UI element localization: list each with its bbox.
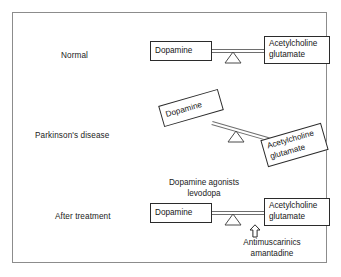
annotation-line-agonists: Dopamine agonists [143,178,265,189]
row-label-parkinsons: Parkinson's disease [35,131,109,140]
node-text-glutamate: glutamate [269,50,325,61]
annotation-line-antimuscarinics: Antimuscarinics [211,238,333,249]
node-box-dopamine-treatment: Dopamine [150,203,212,223]
row-label-treatment: After treatment [55,212,111,221]
annotation-dopamine-agonists: Dopamine agonists levodopa [143,178,265,199]
row-label-normal: Normal [61,51,88,60]
node-box-acetylcholine-parkinsons: Acetylcholine glutamate [260,123,328,167]
node-box-acetylcholine-normal: Acetylcholine glutamate [264,36,330,64]
diagram-frame: Normal Parkinson's disease After treatme… [12,12,327,263]
node-box-dopamine-normal: Dopamine [150,41,212,61]
fulcrum-triangle-parkinsons [227,130,245,143]
node-box-acetylcholine-treatment: Acetylcholine glutamate [264,198,330,226]
annotation-line-amantadine: amantadine [211,249,333,260]
annotation-line-levodopa: levodopa [143,189,265,200]
node-text-acetylcholine: Acetylcholine [269,201,325,212]
node-text-acetylcholine: Acetylcholine [269,39,325,50]
fulcrum-triangle-treatment [224,213,242,226]
annotation-antimuscarinics: Antimuscarinics amantadine [211,238,333,259]
fulcrum-triangle-normal [224,51,242,64]
node-text-glutamate: glutamate [269,212,325,223]
up-arrow-icon [249,224,261,238]
